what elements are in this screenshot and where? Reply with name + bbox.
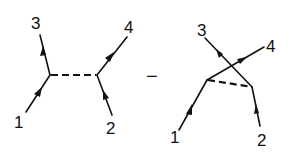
label-3: 3 bbox=[197, 21, 206, 40]
line-particle-4 bbox=[207, 47, 264, 80]
arrow-icon bbox=[254, 104, 259, 114]
feynman-diagram-figure: 1 2 3 4 − 1 2 3 4 bbox=[0, 0, 293, 152]
arrow-icon bbox=[237, 57, 247, 64]
label-3: 3 bbox=[31, 14, 40, 33]
label-2: 2 bbox=[106, 119, 115, 138]
arrow-icon bbox=[40, 46, 46, 56]
label-2: 2 bbox=[257, 131, 266, 150]
line-particle-1 bbox=[179, 80, 207, 130]
arrow-icon bbox=[34, 87, 42, 97]
arrow-icon bbox=[186, 104, 192, 115]
label-1: 1 bbox=[170, 128, 179, 147]
arrow-icon bbox=[105, 52, 114, 62]
diagram-left: 1 2 3 4 bbox=[14, 14, 133, 138]
minus-operator: − bbox=[146, 65, 158, 87]
arrow-icon bbox=[103, 90, 109, 100]
label-1: 1 bbox=[14, 113, 23, 132]
label-4: 4 bbox=[266, 37, 275, 56]
diagram-right: 1 2 3 4 bbox=[170, 21, 275, 150]
label-4: 4 bbox=[124, 18, 133, 37]
